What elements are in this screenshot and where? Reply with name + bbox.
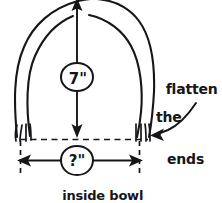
flatten-annotation-line-2: the — [156, 110, 218, 124]
left-flattened-end-d — [30, 124, 31, 140]
left-flattened-end-b — [20, 125, 22, 141]
flatten-annotation-line-1: flatten — [166, 81, 218, 97]
width-dimension-value: ?" — [61, 152, 93, 170]
caption-line-1: inside bowl — [62, 188, 143, 203]
flatten-annotation-line-3: ends — [167, 152, 218, 166]
arch-inner-curve-right — [89, 15, 142, 137]
height-dimension-value: 7" — [62, 70, 94, 88]
right-flattened-end-c — [145, 124, 146, 141]
inside-bowl-measurement-caption: inside bowl measurement — [24, 173, 164, 203]
sketch-diagram-canvas: 7" ?" flatten the ends inside bowl measu… — [0, 0, 222, 203]
